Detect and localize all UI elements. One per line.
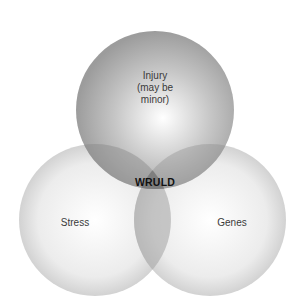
injury-label-line: (may be — [125, 82, 185, 94]
genes-label: Genes — [212, 217, 252, 229]
venn-diagram: Injury (may be minor) Stress Genes WRULD — [0, 0, 307, 308]
stress-label: Stress — [55, 217, 95, 229]
injury-label-line: Injury — [125, 70, 185, 82]
injury-label-line: minor) — [125, 94, 185, 106]
venn-graphic — [0, 0, 307, 308]
injury-label: Injury (may be minor) — [125, 70, 185, 106]
intersection-label: WRULD — [130, 176, 180, 188]
